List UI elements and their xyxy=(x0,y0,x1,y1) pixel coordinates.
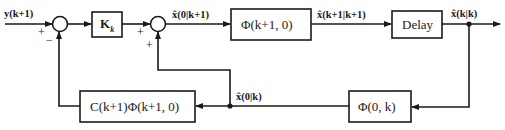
signal-xk-k: x̂(k|k) xyxy=(451,9,477,20)
signal-xk1-k1: x̂(k+1|k+1) xyxy=(317,10,366,21)
gain-label: Kk xyxy=(100,17,114,34)
signal-x0-k: x̂(0|k) xyxy=(236,92,262,103)
signal-x0-k1: x̂(0|k+1) xyxy=(172,10,209,21)
sum1-plus-sign: + xyxy=(38,26,45,38)
transition-label: Φ(k+1, 0) xyxy=(241,18,293,31)
sum2-plus-left-sign: + xyxy=(137,26,144,38)
input-label: y(k+1) xyxy=(4,9,33,20)
backward-transition-label: Φ(0, k) xyxy=(358,100,396,113)
measurement-label: C(k+1)Φ(k+1, 0) xyxy=(90,100,179,113)
summing-junction-2 xyxy=(151,17,166,32)
output-junction-dot xyxy=(466,21,471,26)
delay-label: Delay xyxy=(402,18,433,31)
summing-junction-1 xyxy=(53,17,68,32)
sum2-plus-bottom-sign: + xyxy=(146,39,153,51)
feedback-junction-dot xyxy=(227,103,232,108)
sum1-minus-sign: − xyxy=(46,34,53,46)
